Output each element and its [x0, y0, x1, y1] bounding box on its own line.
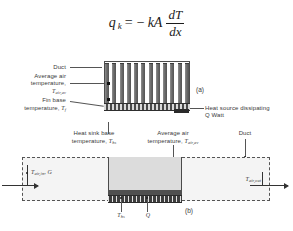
inlet-extra-G: , G: [44, 169, 52, 175]
panel-tag-a: (a): [196, 86, 204, 93]
label-outlet-temperature: Tair,out: [216, 176, 261, 184]
heat-sink-base-b: [108, 190, 182, 201]
avg-air-temp-b-line2-text: temperature,: [148, 138, 183, 144]
duct-wall-top-a: [104, 61, 190, 62]
avg-air-temp-b-symbol-sub: air,av: [188, 140, 198, 145]
inlet-marker: [26, 172, 28, 174]
label-heat-input-b: Q: [136, 212, 160, 220]
label-average-air-temp-a-line2: temperature,: [4, 80, 66, 88]
leader-base-temp-b: [121, 198, 122, 212]
hs-base-temp-line2-text: temperature,: [72, 138, 107, 144]
heat-input-marker-b: [146, 197, 148, 199]
label-average-air-temp-b-line1: Average air: [138, 130, 208, 138]
average-air-temp-marker-a: [107, 82, 110, 85]
label-hs-base-temp-line1: Heat sink base: [52, 130, 136, 138]
heat-source-block-a: [174, 109, 189, 113]
fin-base-temp-symbol-sub: f: [65, 107, 66, 112]
base-temp-symbol-sub: hs: [121, 214, 125, 219]
panel-tag-b: (b): [185, 207, 193, 214]
label-duct-b: Duct: [225, 130, 265, 138]
equation-minus-sign: −: [136, 15, 146, 31]
outlet-tick: [262, 172, 263, 186]
leader-heat-input-b: [147, 198, 148, 212]
figure-root: qk = − kA dT dx Duct Average air tempera…: [0, 0, 293, 231]
leader-fin-base-temp: [70, 101, 104, 107]
leader-duct-a: [70, 67, 102, 68]
equation-equals-sign: =: [124, 15, 134, 31]
base-temp-marker-b: [120, 197, 122, 199]
avg-air-temp-a-symbol-sub: air,av: [56, 90, 66, 95]
fin-base-temp-line2-text: temperature,: [24, 105, 59, 111]
fin: [156, 63, 160, 104]
label-hs-base-temp-line2: temperature, Ths: [52, 138, 136, 146]
fin-base-marker-a: [107, 98, 110, 101]
label-duct-a: Duct: [8, 64, 66, 72]
label-inlet-temperature: Tair,in, G: [31, 169, 52, 177]
equation-lhs-variable: q: [109, 15, 116, 31]
base-hatching: [108, 195, 182, 203]
equation-coefficient: kA: [148, 15, 163, 31]
label-average-air-temp-a-symbol: Tair,av: [4, 88, 66, 96]
equation-fraction: dT dx: [166, 8, 184, 38]
fin-array: [105, 63, 189, 103]
fin: [141, 63, 145, 104]
fin-array-diagram: [104, 61, 190, 111]
label-fin-base-temp-line1: Fin base: [4, 97, 66, 105]
equation-numerator: dT: [166, 8, 184, 22]
fin: [170, 63, 174, 104]
equation-lhs-subscript: k: [118, 21, 122, 31]
hs-base-temp-symbol-sub: hs: [112, 140, 116, 145]
leader-hs-base-temp: [108, 122, 109, 134]
avg-air-temp-a-symbol-T: T: [52, 88, 55, 94]
inlet-flow-arrow: [2, 185, 38, 186]
label-base-temperature-b: Ths: [108, 212, 134, 220]
outlet-symbol-sub: air,out: [249, 178, 261, 183]
label-average-air-temp-b-line2: temperature, Tair,av: [138, 138, 208, 146]
fin: [112, 63, 116, 104]
fin: [149, 63, 153, 104]
fin: [120, 63, 124, 104]
fin: [134, 63, 138, 104]
fin: [127, 63, 131, 104]
label-fin-base-temp-line2: temperature, Tf: [0, 105, 66, 113]
heat-input-symbol-Q: Q: [146, 212, 150, 218]
label-heat-source-line2: Q Watt: [205, 112, 224, 120]
fin: [178, 63, 182, 104]
inlet-tick: [27, 165, 28, 186]
inlet-symbol-sub: air,in: [34, 171, 44, 176]
outlet-flow-arrow: [250, 185, 288, 186]
conduction-equation: qk = − kA dT dx: [0, 8, 293, 38]
fin: [163, 63, 167, 104]
equation-denominator: dx: [167, 25, 183, 39]
equation-row: qk = − kA dT dx: [109, 8, 184, 38]
fin: [185, 63, 189, 104]
